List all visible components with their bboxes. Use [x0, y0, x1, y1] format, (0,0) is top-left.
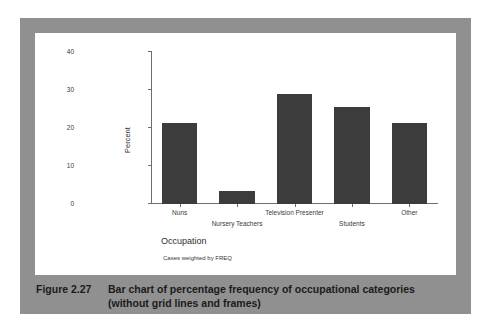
x-axis-tick [409, 204, 410, 207]
y-axis-tick-label: 20 [34, 124, 74, 131]
figure-caption-text: Bar chart of percentage frequency of occ… [108, 282, 458, 310]
x-axis-tick [237, 204, 238, 207]
y-axis-tick [148, 165, 152, 166]
x-axis-category-label: Nursery Teachers [192, 220, 282, 228]
chart-footnote: Cases weighted by FREQ [163, 255, 232, 261]
y-axis-tick-label: 30 [34, 86, 74, 93]
y-axis-title: Percent [123, 127, 132, 153]
y-axis-tick-label: 40 [34, 48, 74, 55]
y-axis-tick [148, 127, 152, 128]
y-axis-tick-label: 10 [34, 162, 74, 169]
x-axis-category-label: Nuns [135, 209, 225, 217]
x-axis-tick [352, 204, 353, 207]
bar-chart: 0 10 20 30 40 Percent Nuns Nurs [35, 33, 456, 275]
x-axis-category-label: Other [364, 209, 454, 217]
figure-container: 0 10 20 30 40 Percent Nuns Nurs [20, 18, 471, 314]
x-axis-category-label: Television Presenter [250, 209, 340, 217]
x-axis-tick [295, 204, 296, 207]
y-axis-tick [148, 51, 152, 52]
bar [392, 123, 428, 204]
x-axis-title: Occupation [161, 236, 207, 246]
bar [277, 94, 313, 204]
y-axis-tick [148, 89, 152, 90]
bar [219, 191, 255, 204]
figure-caption-number: Figure 2.27 [36, 282, 91, 296]
bar [162, 123, 198, 204]
y-axis-tick-label: 0 [34, 200, 74, 207]
bar [334, 107, 370, 204]
x-axis-tick [180, 204, 181, 207]
x-axis-category-label: Students [307, 220, 397, 228]
y-axis-tick [148, 203, 152, 204]
chart-panel: 0 10 20 30 40 Percent Nuns Nurs [35, 33, 456, 275]
